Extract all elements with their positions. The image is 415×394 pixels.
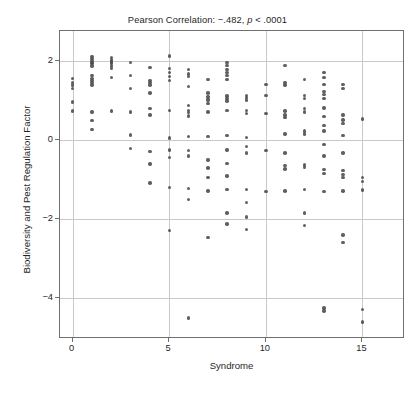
data-point — [206, 91, 209, 94]
data-point — [361, 176, 364, 179]
data-point — [206, 236, 209, 239]
scatter-plot-figure: Pearson Correlation: −.482, p < .0001 20… — [0, 0, 415, 394]
data-point — [341, 169, 344, 172]
data-point — [187, 68, 190, 71]
data-point — [341, 113, 344, 116]
data-point — [225, 188, 228, 191]
data-point — [361, 320, 364, 323]
x-tick-label: 15 — [341, 343, 381, 353]
data-point — [341, 189, 344, 192]
data-point — [225, 162, 228, 165]
data-point — [225, 109, 228, 112]
data-point — [225, 74, 228, 77]
data-point — [322, 154, 325, 157]
data-point — [71, 77, 74, 80]
y-axis-tickmarks — [59, 30, 60, 338]
gridline-vertical — [266, 31, 267, 337]
data-point — [283, 116, 286, 119]
data-point — [168, 75, 171, 78]
data-point — [206, 158, 209, 161]
data-point — [187, 316, 190, 319]
data-point — [322, 76, 325, 79]
data-point — [148, 83, 151, 86]
data-point — [110, 67, 113, 70]
data-point — [225, 148, 228, 151]
x-tick-label: 5 — [148, 343, 188, 353]
data-point — [129, 133, 132, 136]
data-point — [283, 109, 286, 112]
data-point — [322, 168, 325, 171]
data-point — [129, 74, 132, 77]
y-tickmark — [55, 297, 59, 298]
data-point — [322, 115, 325, 118]
data-point — [341, 151, 344, 154]
data-point — [206, 176, 209, 179]
x-tick-label: 0 — [52, 343, 92, 353]
data-point — [341, 83, 344, 86]
data-point — [322, 172, 325, 175]
data-point — [206, 135, 209, 138]
data-point — [303, 211, 306, 214]
data-point — [148, 66, 151, 69]
y-tickmark — [55, 218, 59, 219]
data-point — [110, 109, 113, 112]
x-tickmark — [265, 338, 266, 342]
plot-area — [59, 30, 404, 338]
data-point — [187, 149, 190, 152]
data-point — [110, 76, 113, 79]
data-point — [341, 134, 344, 137]
data-point — [303, 78, 306, 81]
data-point — [245, 188, 248, 191]
data-point — [264, 94, 267, 97]
data-point — [71, 87, 74, 90]
data-point — [168, 79, 171, 82]
data-point — [90, 110, 93, 113]
y-tick-label: −4 — [34, 292, 53, 302]
data-point — [148, 181, 151, 184]
data-point — [303, 166, 306, 169]
data-point — [245, 136, 248, 139]
plot-canvas — [60, 31, 403, 337]
data-point — [361, 117, 364, 120]
data-point — [361, 180, 364, 183]
y-tick-label: 2 — [34, 55, 53, 65]
data-point — [361, 188, 364, 191]
gridline-vertical — [362, 31, 363, 337]
data-point — [168, 109, 171, 112]
chart-title-prefix: Pearson Correlation: −.482, — [128, 15, 247, 25]
data-point — [283, 151, 286, 154]
data-point — [341, 122, 344, 125]
data-point — [322, 190, 325, 193]
data-point — [341, 87, 344, 90]
data-point — [129, 110, 132, 113]
data-point — [322, 129, 325, 132]
data-point — [264, 83, 267, 86]
data-point — [225, 99, 228, 102]
data-point — [129, 147, 132, 150]
chart-title-suffix: < .0001 — [252, 15, 287, 25]
data-point — [71, 100, 74, 103]
data-point — [245, 145, 248, 148]
data-point — [245, 98, 248, 101]
data-point — [322, 93, 325, 96]
chart-title: Pearson Correlation: −.482, p < .0001 — [0, 15, 415, 25]
data-point — [206, 189, 209, 192]
caption-sliver — [0, 386, 415, 394]
data-point — [283, 64, 286, 67]
data-point — [283, 167, 286, 170]
data-point — [264, 112, 267, 115]
gridline-horizontal — [60, 298, 403, 299]
data-point — [283, 83, 286, 86]
data-point — [341, 241, 344, 244]
data-point — [225, 134, 228, 137]
data-point — [187, 135, 190, 138]
data-point — [322, 97, 325, 100]
data-point — [303, 188, 306, 191]
data-point — [187, 85, 190, 88]
data-point — [187, 104, 190, 107]
data-point — [361, 308, 364, 311]
y-axis-title: Biodiversity and Pest Regulation Factor — [21, 80, 32, 300]
data-point — [148, 91, 151, 94]
data-point — [148, 113, 151, 116]
data-point — [225, 222, 228, 225]
